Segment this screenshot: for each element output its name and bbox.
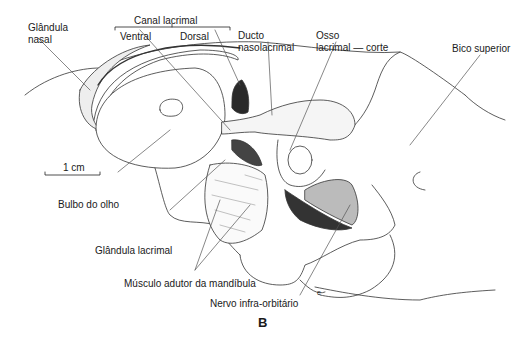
label-ventral: Ventral: [120, 31, 151, 42]
small-mark: e: [317, 287, 321, 298]
label-nervo-infra-orbitario: Nervo infra-orbitário: [210, 298, 298, 309]
label-musculo-adutor: Músculo adutor da mandíbula: [124, 278, 256, 289]
label-dorsal: Dorsal: [180, 31, 209, 42]
label-canal-lacrimal: Canal lacrimal: [134, 15, 197, 26]
label-glandula-nasal-1: Glândula: [28, 22, 68, 33]
label-osso-2: lacrimal — corte: [316, 42, 388, 53]
eye-bulb-shape: [96, 68, 225, 168]
label-bico-superior: Bico superior: [452, 43, 510, 54]
canal-bracket: [115, 27, 230, 30]
label-glandula-lacrimal: Glândula lacrimal: [95, 245, 172, 256]
anatomical-diagram: Glândula nasal Canal lacrimal Ventral Do…: [0, 0, 527, 340]
label-glandula-nasal-2: nasal: [28, 34, 52, 45]
nostril-curve: [413, 172, 425, 190]
label-ducto-2: nasolacrimal: [238, 42, 294, 53]
label-osso-1: Osso: [316, 30, 339, 41]
dark-structure-shape: [232, 80, 249, 114]
label-bulbo-do-olho: Bulbo do olho: [58, 199, 119, 210]
panel-letter: B: [258, 317, 267, 328]
scale-bar-label: 1 cm: [63, 162, 85, 173]
label-ducto-1: Ducto: [238, 30, 264, 41]
